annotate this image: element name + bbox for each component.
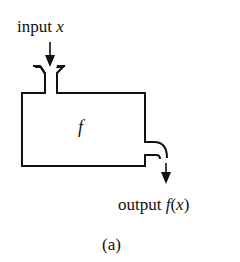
input-arrow-icon — [45, 42, 55, 67]
input-variable: x — [56, 17, 64, 36]
function-label: f — [78, 118, 83, 136]
output-arrow-icon — [161, 163, 171, 184]
figure-caption: (a) — [102, 236, 121, 253]
input-word: input — [17, 17, 52, 36]
function-machine-diagram: input x f output f(x) (a) — [0, 0, 240, 262]
input-label: input x — [17, 18, 64, 35]
output-word: output — [118, 195, 161, 214]
output-variable: x — [176, 195, 184, 214]
output-label: output f(x) — [118, 196, 189, 213]
machine-drawing — [0, 0, 240, 262]
output-paren-close: ) — [184, 195, 190, 214]
machine-body — [22, 67, 167, 166]
